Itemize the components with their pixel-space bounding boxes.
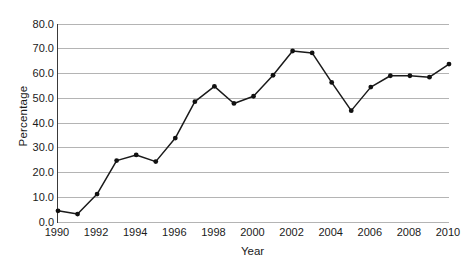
data-point-marker [153,159,158,164]
y-tick-label: 10.0 [10,192,54,203]
data-point-marker [134,153,139,158]
x-tick-label: 2010 [425,226,464,239]
data-point-marker [349,108,354,113]
data-point-marker [271,73,276,78]
data-point-marker [75,212,80,217]
data-point-marker [232,101,237,106]
data-point-marker [173,136,178,141]
series-layer [58,24,449,222]
y-tick-label: 50.0 [10,93,54,104]
x-axis-tick-labels: 1990199219941996199820002002200420062008… [0,226,464,242]
data-point-marker [329,80,334,85]
data-point-marker [251,94,256,99]
data-point-marker [56,208,61,213]
line-chart-figure: Percentage 0.010.020.030.040.050.060.070… [0,0,464,271]
data-point-marker [368,85,373,90]
data-point-marker [310,51,315,56]
data-point-marker [212,84,217,89]
y-tick-label: 60.0 [10,68,54,79]
x-axis-title: Year [57,245,448,257]
data-point-marker [114,158,119,163]
y-tick-label: 80.0 [10,19,54,30]
data-point-marker [447,62,452,67]
data-point-marker [427,75,432,80]
data-point-marker [388,73,393,78]
plot-area [57,24,449,223]
y-tick-label: 30.0 [10,142,54,153]
y-tick-label: 40.0 [10,118,54,129]
data-point-marker [192,99,197,104]
y-tick-label: 70.0 [10,43,54,54]
data-point-marker [408,73,413,78]
y-tick-label: 20.0 [10,167,54,178]
data-point-marker [95,192,100,197]
data-point-marker [290,49,295,54]
